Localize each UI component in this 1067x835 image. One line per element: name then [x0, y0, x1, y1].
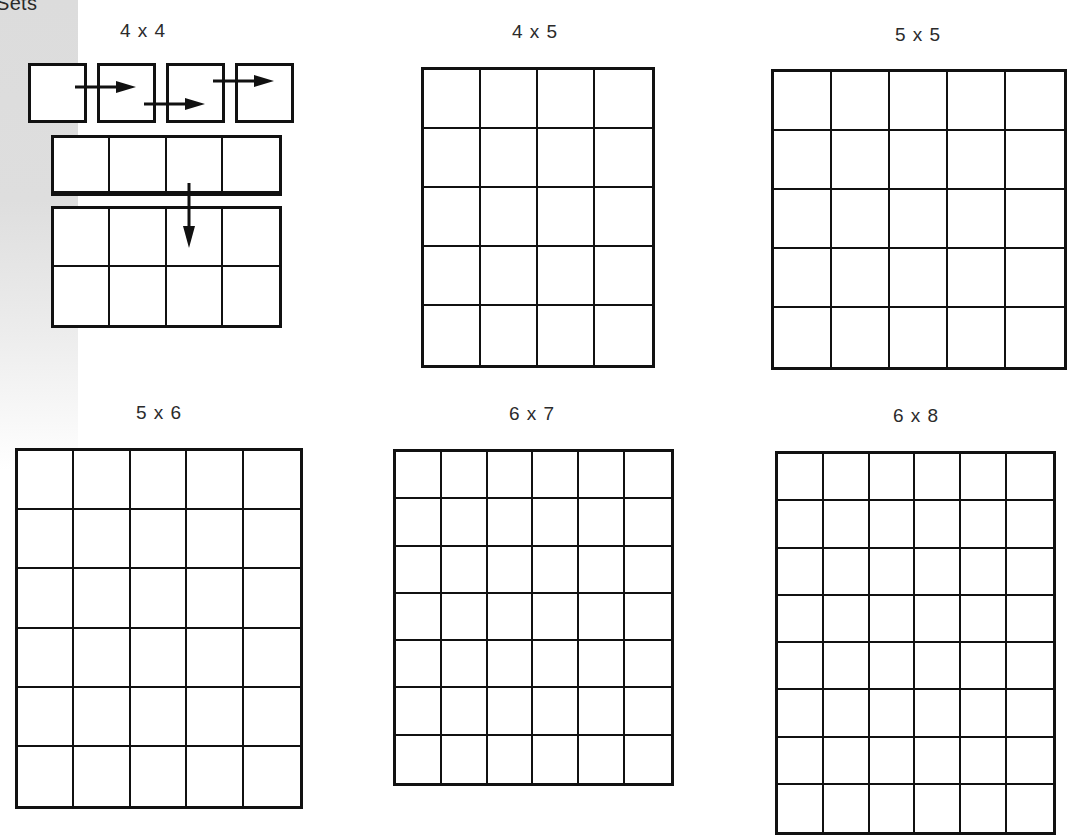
grid-cell [424, 247, 481, 306]
grid-cell [223, 209, 279, 267]
grid-cell [533, 547, 579, 594]
grid-cell [442, 688, 488, 735]
grid-cell [961, 596, 1007, 643]
grid-cell [488, 688, 534, 735]
grid-cell [538, 306, 595, 365]
grid-cell [948, 131, 1006, 190]
grid-cell [1007, 549, 1053, 596]
grid-cell [824, 549, 870, 596]
grid-cell [778, 501, 824, 548]
grid-cell [579, 499, 625, 546]
grid-cell [625, 736, 671, 783]
grid-cell [915, 596, 961, 643]
grid-cell [533, 688, 579, 735]
grid-cell [915, 643, 961, 690]
grid-cell [832, 190, 890, 249]
grid-cell [890, 308, 948, 367]
grid-cell [18, 510, 74, 569]
figure-5x6-grid [15, 448, 303, 809]
grid-cell [774, 249, 832, 308]
grid-cell [396, 499, 442, 546]
grid-cell [18, 569, 74, 628]
grid-cell [187, 629, 243, 688]
grid-cell [579, 688, 625, 735]
block-two-rows [51, 206, 282, 328]
grid-cell [167, 267, 223, 325]
grid-cell [890, 72, 948, 131]
grid-cell [1007, 596, 1053, 643]
grid-cell [774, 131, 832, 190]
grid-cell [488, 736, 534, 783]
grid-cell [774, 72, 832, 131]
grid-cell [778, 785, 824, 832]
grid-cell [595, 129, 652, 188]
grid-cell [961, 738, 1007, 785]
grid-cell [890, 249, 948, 308]
grid-cell [74, 510, 130, 569]
grid-cell [961, 454, 1007, 501]
grid-cell [579, 594, 625, 641]
grid-cell [625, 594, 671, 641]
grid-cell [244, 510, 300, 569]
grid-cell [824, 454, 870, 501]
grid-cell [167, 138, 223, 193]
grid-cell [778, 454, 824, 501]
grid-cell [396, 641, 442, 688]
grid-cell [110, 267, 166, 325]
grid-cell [824, 785, 870, 832]
grid-cell [244, 451, 300, 510]
grid-cell [961, 501, 1007, 548]
grid-cell [110, 209, 166, 267]
grid-cell [1006, 308, 1064, 367]
grid-cell [961, 690, 1007, 737]
grid-cell [915, 549, 961, 596]
grid-cell [54, 138, 110, 193]
grid-cell [774, 308, 832, 367]
grid-cell [1007, 738, 1053, 785]
grid-cell [778, 549, 824, 596]
grid-cell [625, 499, 671, 546]
grid-cell [579, 641, 625, 688]
grid-cell [442, 641, 488, 688]
figure-label-4x5: 4 x 5 [465, 21, 605, 43]
grid-cell [870, 643, 916, 690]
grid-cell [1006, 190, 1064, 249]
grid-cell [131, 451, 187, 510]
grid-cell [961, 643, 1007, 690]
grid-cell [488, 452, 534, 499]
single-square [235, 63, 294, 123]
grid-cell [948, 249, 1006, 308]
single-square [28, 63, 87, 123]
grid-cell [1006, 131, 1064, 190]
grid-cell [961, 549, 1007, 596]
grid-cell [424, 188, 481, 247]
grid-cell [18, 451, 74, 510]
grid-cell [824, 501, 870, 548]
grid-cell [870, 785, 916, 832]
grid-cell [396, 452, 442, 499]
figure-label-6x7: 6 x 7 [462, 403, 602, 425]
grid-cell [595, 70, 652, 129]
grid-cell [488, 499, 534, 546]
single-square [166, 63, 225, 123]
grid-cell [915, 738, 961, 785]
grid-cell [187, 510, 243, 569]
grid-cell [442, 499, 488, 546]
grid-cell [538, 188, 595, 247]
figure-4x5-grid [421, 67, 655, 368]
grid-cell [223, 138, 279, 193]
grid-cell [424, 70, 481, 129]
grid-cell [244, 569, 300, 628]
grid-cell [131, 747, 187, 806]
grid-cell [396, 594, 442, 641]
grid-cell [595, 188, 652, 247]
grid-cell [774, 190, 832, 249]
grid-cell [870, 454, 916, 501]
grid-cell [579, 547, 625, 594]
grid-cell [1007, 501, 1053, 548]
grid-cell [442, 736, 488, 783]
grid-cell [74, 569, 130, 628]
grid-cell [54, 209, 110, 267]
grid-cell [1006, 72, 1064, 131]
grid-cell [870, 738, 916, 785]
